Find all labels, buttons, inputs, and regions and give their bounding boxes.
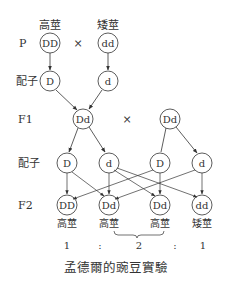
parent-left-genotype: DD: [42, 38, 58, 49]
f1-right-node: Dd: [160, 109, 180, 129]
ratio-separator-1: :: [98, 240, 101, 251]
svg-text:D: D: [46, 76, 54, 87]
diagram-caption: 孟德爾的豌豆實驗: [64, 260, 168, 275]
heterozygous-brace: [114, 231, 164, 238]
svg-text:dd: dd: [196, 200, 209, 211]
f1-left-node: Dd: [73, 109, 93, 129]
parent-left-phenotype: 高莖: [39, 18, 61, 32]
row-label-gamete-2: 配子: [18, 157, 40, 170]
svg-text:Dd: Dd: [76, 114, 91, 125]
parent-arrows: [50, 53, 108, 70]
cross-symbol-f1: ×: [122, 113, 131, 126]
svg-text:D: D: [63, 158, 71, 169]
row-label-f1: F1: [18, 113, 33, 126]
parent-right-genotype: dd: [102, 38, 115, 49]
ratio-separator-2: :: [173, 240, 176, 251]
f2-phenotype-3: 高莖: [150, 217, 170, 229]
parent-gamete-d: d: [98, 71, 118, 91]
f2-node-1: DD: [57, 195, 77, 215]
fertilization-arrows: [56, 90, 102, 110]
svg-text:d: d: [105, 76, 112, 87]
parent-gamete-D: D: [40, 71, 60, 91]
svg-text:DD: DD: [59, 200, 75, 211]
cross-symbol-p: ×: [73, 37, 82, 50]
svg-text:D: D: [156, 158, 164, 169]
row-label-gamete-1: 配子: [16, 75, 38, 88]
parent-left-node: DD: [40, 33, 60, 53]
f2-node-2: Dd: [99, 195, 119, 215]
row-label-p: P: [19, 37, 27, 50]
f2-phenotype-4: 矮莖: [192, 218, 212, 229]
ratio-dominant-homozygous: 1: [64, 240, 70, 251]
svg-text:Dd: Dd: [153, 200, 168, 211]
f2-node-4: dd: [192, 195, 212, 215]
parent-right-phenotype: 矮莖: [97, 18, 119, 32]
f1-gamete-1: D: [57, 153, 77, 173]
svg-text:d: d: [106, 158, 113, 169]
ratio-heterozygous: 2: [136, 240, 142, 251]
ratio-recessive-homozygous: 1: [200, 240, 206, 251]
f2-node-3: Dd: [150, 195, 170, 215]
f1-gamete-2: d: [99, 153, 119, 173]
f2-phenotype-2: 高莖: [99, 217, 119, 229]
svg-text:Dd: Dd: [102, 200, 117, 211]
parent-right-node: dd: [98, 33, 118, 53]
svg-text:d: d: [199, 158, 206, 169]
combination-arrows: [67, 168, 202, 199]
f1-arrows: [69, 127, 197, 153]
mendel-cross-diagram: P 配子 F1 配子 F2 高莖 矮莖 DD × dd D d Dd × Dd: [0, 0, 230, 284]
row-label-f2: F2: [18, 199, 33, 212]
f2-phenotype-1: 高莖: [57, 217, 77, 229]
svg-text:Dd: Dd: [163, 114, 178, 125]
